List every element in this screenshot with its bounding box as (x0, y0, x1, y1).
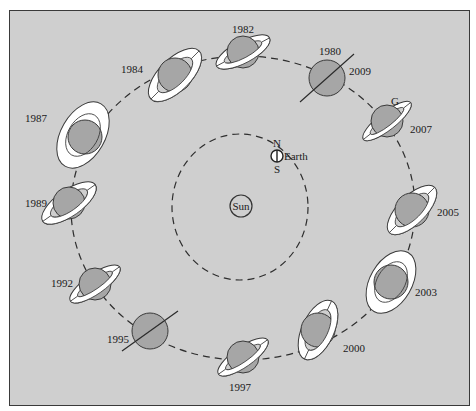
year-label-1987: 1987 (25, 112, 48, 124)
saturn-icon (68, 120, 102, 154)
saturn-ring-diagram: Sun N S Earth 1982 1980 2009 (0, 0, 476, 411)
saturn-icon (158, 58, 192, 92)
year-label-2007: 2007 (410, 123, 433, 135)
saturn-2003 (356, 242, 426, 322)
saturn-1992 (65, 259, 126, 310)
earth-label: Earth (284, 150, 308, 162)
earth: N S Earth (271, 137, 308, 175)
saturn-icon (374, 265, 408, 299)
year-label-2005: 2005 (437, 206, 460, 218)
year-label-2000: 2000 (343, 342, 366, 354)
year-label-1995: 1995 (107, 333, 130, 345)
sun-label: Sun (232, 200, 250, 212)
earth-south-label: S (274, 163, 280, 175)
earth-north-label: N (273, 137, 281, 149)
year-label-1989: 1989 (25, 197, 48, 209)
saturn-2007 (358, 95, 416, 146)
saturn-1982 (211, 28, 274, 76)
saturn-1980-2009 (300, 54, 354, 102)
saturn-1984 (140, 40, 211, 111)
saturn-1987 (46, 93, 120, 177)
year-label-1997: 1997 (229, 381, 252, 393)
saturn-2005 (379, 177, 444, 242)
saturn-2000 (290, 294, 346, 366)
year-label-1982: 1982 (232, 23, 254, 35)
year-label-1980: 1980 (319, 45, 342, 57)
year-label-1984: 1984 (121, 63, 144, 75)
year-label-1992: 1992 (51, 277, 73, 289)
sun: Sun (230, 195, 252, 217)
position-label-g: G (391, 95, 399, 107)
year-label-2003: 2003 (415, 286, 438, 298)
year-label-2009: 2009 (349, 65, 372, 77)
saturn-1997 (213, 332, 274, 383)
